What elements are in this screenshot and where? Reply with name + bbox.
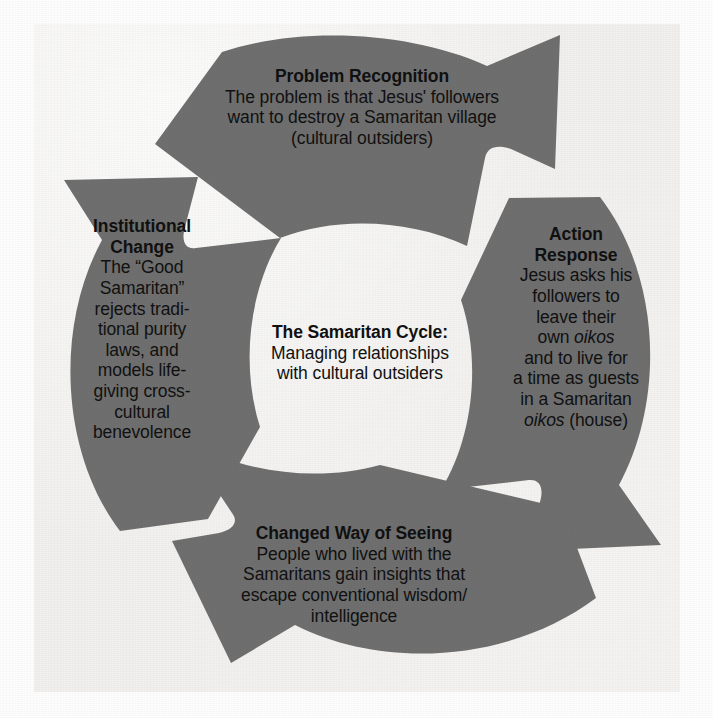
- action-line-7: in a Samaritan: [492, 389, 660, 410]
- changed-title: Changed Way of Seeing: [178, 523, 530, 544]
- institutional-line-7: giving cross-: [56, 381, 228, 402]
- institutional-title-line-2: Change: [56, 237, 228, 258]
- action-line-4: own oikos: [492, 327, 660, 348]
- changed-line-2: Samaritans gain insights that: [178, 564, 530, 585]
- institutional-line-2: Samaritan”: [56, 278, 228, 299]
- institutional-line-6: models life-: [56, 360, 228, 381]
- action-line-8-italic: oikos: [524, 410, 564, 430]
- action-title-line-1: Action: [492, 224, 660, 245]
- action-line-2: followers to: [492, 286, 660, 307]
- institutional-line-5: laws, and: [56, 340, 228, 361]
- institutional-line-3: rejects tradi-: [56, 299, 228, 320]
- institutional-line-8: cultural: [56, 402, 228, 423]
- stage-label-problem-recognition: Problem Recognition The problem is that …: [176, 66, 548, 149]
- changed-line-4: intelligence: [178, 606, 530, 627]
- stage-label-changed-way-of-seeing: Changed Way of Seeing People who lived w…: [178, 523, 530, 626]
- action-line-8: oikos (house): [492, 410, 660, 431]
- problem-line-2: want to destroy a Samaritan village: [176, 107, 548, 128]
- action-line-6: a time as guests: [492, 368, 660, 389]
- figure-canvas: Problem Recognition The problem is that …: [0, 0, 713, 718]
- action-line-8-text: (house): [564, 410, 627, 430]
- institutional-title-line-1: Institutional: [56, 216, 228, 237]
- problem-line-3: (cultural outsiders): [176, 128, 548, 149]
- changed-line-1: People who lived with the: [178, 544, 530, 565]
- action-line-3: leave their: [492, 307, 660, 328]
- action-line-1: Jesus asks his: [492, 265, 660, 286]
- stage-label-institutional-change: Institutional Change The “Good Samaritan…: [56, 216, 228, 443]
- stage-label-action-response: Action Response Jesus asks his followers…: [492, 224, 660, 430]
- changed-line-3: escape conventional wisdom/: [178, 585, 530, 606]
- action-line-5: and to live for: [492, 348, 660, 369]
- action-title-line-2: Response: [492, 245, 660, 266]
- institutional-line-9: benevolence: [56, 422, 228, 443]
- problem-title: Problem Recognition: [176, 66, 548, 87]
- action-line-4-text: own: [538, 327, 575, 347]
- center-line-2: with cultural outsiders: [238, 363, 482, 384]
- institutional-line-4: tional purity: [56, 319, 228, 340]
- center-title: The Samaritan Cycle:: [238, 322, 482, 343]
- center-line-1: Managing relationships: [238, 343, 482, 364]
- problem-line-1: The problem is that Jesus' followers: [176, 87, 548, 108]
- institutional-line-1: The “Good: [56, 257, 228, 278]
- center-caption: The Samaritan Cycle: Managing relationsh…: [238, 322, 482, 384]
- action-line-4-italic: oikos: [574, 327, 614, 347]
